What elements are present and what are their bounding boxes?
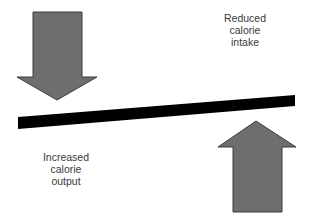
reduced-calorie-intake-label: Reduced calorie intake [215, 12, 275, 48]
label-line: calorie [215, 24, 275, 36]
down-arrow-icon [17, 12, 97, 100]
label-line: output [36, 175, 96, 187]
label-line: calorie [36, 163, 96, 175]
up-arrow-icon [218, 121, 296, 212]
label-line: intake [215, 36, 275, 48]
label-line: Increased [36, 151, 96, 163]
increased-calorie-output-label: Increased calorie output [36, 151, 96, 187]
label-line: Reduced [215, 12, 275, 24]
